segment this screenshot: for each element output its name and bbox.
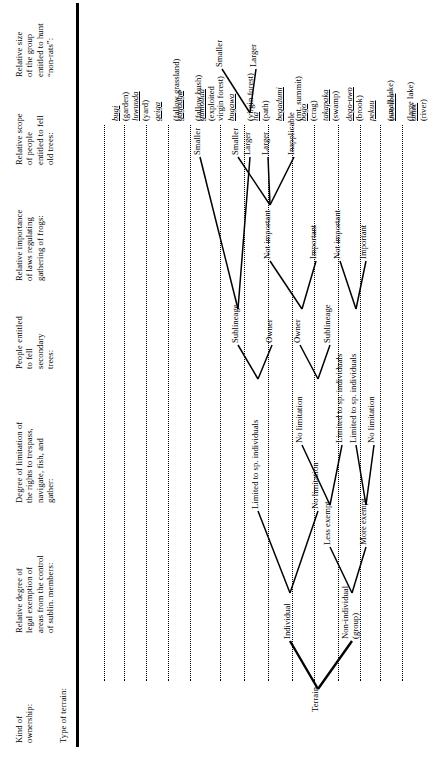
leader-pekuu <box>352 125 361 681</box>
leader-bugawa <box>212 125 221 681</box>
tree-node-old-1[interactable]: Smaller <box>192 128 202 155</box>
leader-gagaaga <box>160 125 169 681</box>
leader-bugi <box>96 125 105 681</box>
terrain-native-omee: omee <box>408 103 418 121</box>
tree-node-lim-3[interactable]: No limitation <box>294 396 304 443</box>
tree-node-lim-1[interactable]: Limited to sp. individuals <box>250 420 260 509</box>
tree-node-sec-3[interactable]: Owner <box>292 319 302 343</box>
tree-node-terrain-root[interactable]: Terrain <box>310 687 320 735</box>
leader-bogo <box>284 125 293 681</box>
leader-luwuuda <box>116 125 125 681</box>
leader-takapaka <box>306 125 315 681</box>
leader-ita <box>236 125 245 681</box>
leader-geiga <box>138 125 147 681</box>
leader-omee <box>394 125 403 681</box>
leader-gumouda <box>182 125 191 681</box>
leader-uwoibo <box>372 125 381 681</box>
leader-degouwo <box>330 125 339 681</box>
leader-begadumi <box>260 125 269 681</box>
terrain-gloss-omee: (river) <box>418 99 428 121</box>
terrain-label-omee[interactable]: omee (river) <box>390 3 428 121</box>
terrain-native-gumouda: gumouda <box>196 89 206 121</box>
